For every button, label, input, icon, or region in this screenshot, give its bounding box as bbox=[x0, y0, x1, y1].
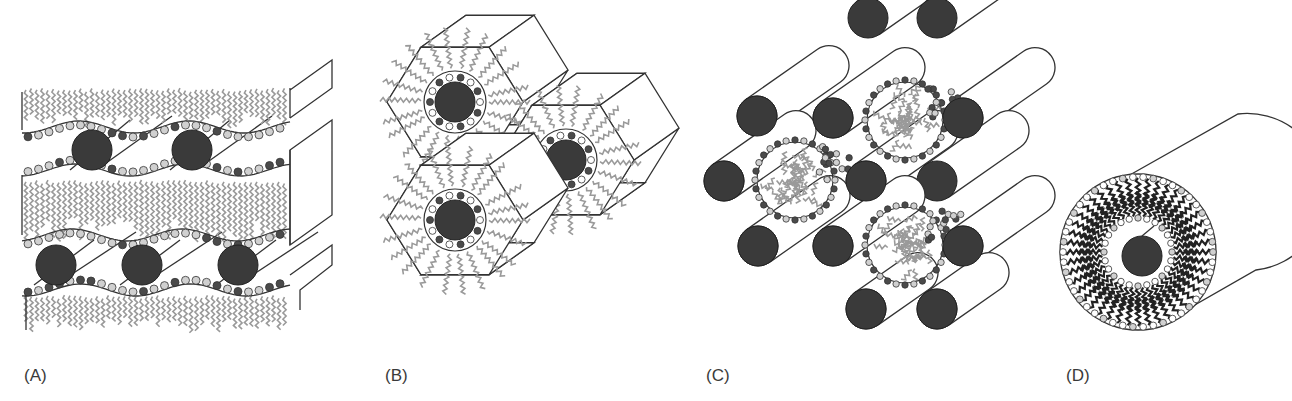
lamellar-diagram bbox=[0, 0, 340, 360]
panel-c-cylinder-packing bbox=[690, 0, 1040, 360]
panel-d-single-cylinder bbox=[1040, 0, 1292, 360]
panel-a-lamellar bbox=[0, 0, 340, 360]
panel-b-label: (B) bbox=[385, 366, 408, 386]
cylinder-packing-diagram bbox=[690, 0, 1040, 360]
panel-c-label: (C) bbox=[706, 366, 730, 386]
panel-b-hexagonal bbox=[370, 0, 690, 360]
panel-a-label: (A) bbox=[24, 366, 47, 386]
panel-d-label: (D) bbox=[1066, 366, 1090, 386]
hexagonal-diagram bbox=[370, 0, 690, 360]
single-cylinder-diagram bbox=[1040, 0, 1292, 360]
